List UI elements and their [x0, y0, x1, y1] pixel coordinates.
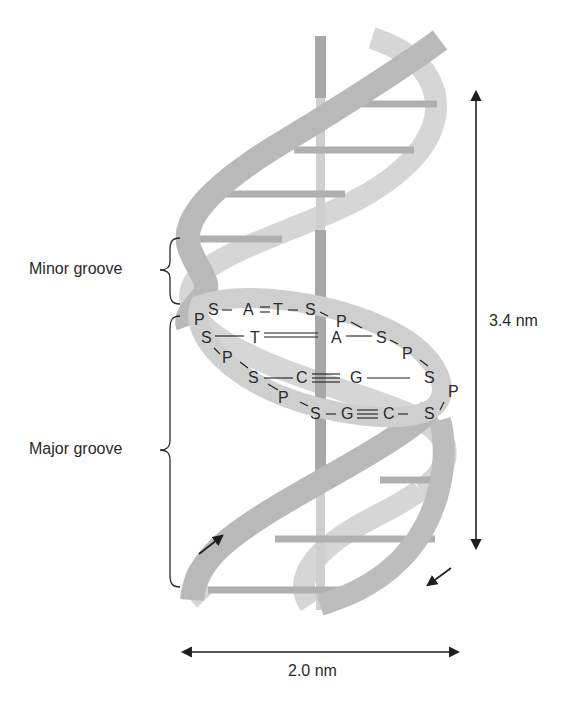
dna-helix-diagram: Minor groove Major groove 3.4 nm 2.0 nm … — [0, 0, 576, 708]
sugar-label: S — [248, 370, 259, 386]
helix-graphic — [0, 0, 576, 708]
phosphate-label: P — [222, 350, 233, 366]
sugar-label: S — [305, 302, 316, 318]
phosphate-label: P — [336, 314, 347, 330]
minor-groove-label: Minor groove — [29, 260, 122, 278]
helix-axis-front-top — [315, 36, 326, 98]
pitch-label: 3.4 nm — [489, 312, 538, 330]
sugar-label: S — [310, 406, 321, 422]
cytosine-label: C — [383, 406, 395, 422]
cytosine-label: C — [296, 370, 308, 386]
major-groove-brace — [160, 316, 180, 587]
sugar-label: S — [208, 302, 219, 318]
phosphate-label: P — [448, 384, 459, 400]
thymine-label: T — [250, 330, 260, 346]
adenine-label: A — [331, 330, 342, 346]
sugar-label: S — [201, 330, 212, 346]
sugar-label: S — [424, 370, 435, 386]
phosphate-label: P — [278, 390, 289, 406]
thymine-label: T — [273, 302, 283, 318]
phosphate-label: P — [194, 312, 205, 328]
helix-axis-front-mid — [315, 230, 326, 480]
guanine-label: G — [341, 406, 353, 422]
sugar-label: S — [424, 406, 435, 422]
diameter-label: 2.0 nm — [288, 662, 337, 680]
major-groove-label: Major groove — [29, 440, 122, 458]
adenine-label: A — [243, 302, 254, 318]
phosphate-label: P — [402, 346, 413, 362]
sugar-label: S — [376, 330, 387, 346]
strand-direction-arrow-down — [428, 568, 451, 585]
guanine-label: G — [350, 370, 362, 386]
